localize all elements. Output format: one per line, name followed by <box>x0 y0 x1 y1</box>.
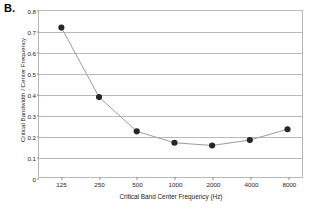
figure-panel-b: B. Critical Bandwidth / Center Frequency… <box>0 0 319 215</box>
data-point <box>171 140 177 146</box>
x-tick-mark <box>251 177 252 180</box>
x-tick-mark <box>61 177 62 180</box>
x-tick-label: 2000 <box>207 181 221 188</box>
data-point <box>209 142 215 148</box>
x-tick-label: 1000 <box>169 181 183 188</box>
series-line <box>61 28 287 146</box>
y-tick-label: 0.1 <box>27 155 36 162</box>
data-point <box>247 137 253 143</box>
y-axis-title: Critical Bandwidth / Center Frequency <box>19 5 27 175</box>
x-tick-label: 4000 <box>245 181 259 188</box>
y-tick-label: 0.5 <box>27 71 36 78</box>
x-tick-mark <box>213 177 214 180</box>
data-point <box>284 126 290 132</box>
plot-area: 00.10.20.30.40.50.60.70.8 12525050010002… <box>38 10 303 178</box>
data-point <box>96 94 102 100</box>
x-axis-title: Critical Band Center Frequency (Hz) <box>38 193 304 200</box>
y-tick-label: 0 <box>33 176 36 183</box>
x-tick-mark <box>99 177 100 180</box>
y-tick-label: 0.6 <box>27 50 36 57</box>
data-point <box>58 25 64 31</box>
y-tick-label: 0.3 <box>27 113 36 120</box>
data-point <box>134 128 140 134</box>
y-tick-label: 0.2 <box>27 134 36 141</box>
x-tick-label: 500 <box>132 181 142 188</box>
x-tick-label: 250 <box>94 181 104 188</box>
panel-label: B. <box>4 2 15 14</box>
x-tick-mark <box>289 177 290 180</box>
y-tick-label: 0.8 <box>27 8 36 15</box>
y-tick-label: 0.7 <box>27 29 36 36</box>
data-series <box>39 11 302 177</box>
y-tick-label: 0.4 <box>27 92 36 99</box>
x-tick-mark <box>137 177 138 180</box>
x-tick-mark <box>175 177 176 180</box>
x-tick-label: 8000 <box>283 181 297 188</box>
y-tick-mark <box>37 179 39 180</box>
x-tick-label: 125 <box>56 181 66 188</box>
